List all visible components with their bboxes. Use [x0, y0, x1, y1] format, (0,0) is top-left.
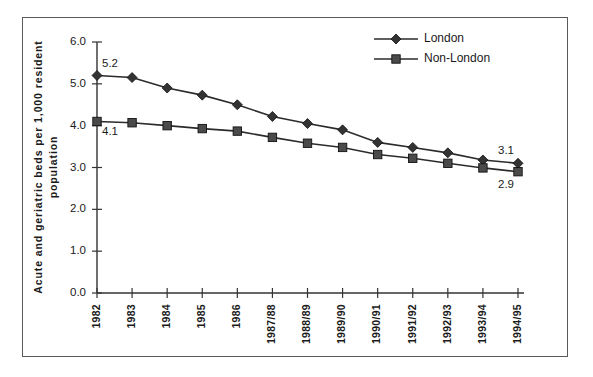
- chart-page: Acute and geriatric beds per 1,000 resid…: [0, 0, 593, 377]
- x-axis-tick-label: 1991/92: [406, 304, 418, 344]
- data-point-label: 3.1: [498, 144, 514, 156]
- data-point-marker-diamond: [197, 90, 207, 100]
- data-point-marker-diamond: [232, 100, 242, 110]
- data-point-marker-diamond: [92, 70, 102, 80]
- x-axis-tick-label: 1992/93: [441, 304, 453, 344]
- x-axis-tick-label: 1987/88: [265, 304, 277, 344]
- data-point-marker-diamond: [443, 148, 453, 158]
- y-axis-tick-label: 2.0: [70, 202, 86, 214]
- x-axis-tick-label: 1990/91: [370, 304, 382, 344]
- data-point-marker-square: [268, 133, 276, 141]
- data-point-marker-square: [373, 150, 381, 158]
- plot-area: 0.01.02.03.04.05.06.0 198219831984198519…: [22, 17, 568, 357]
- x-axis: 198219831984198519861987/881988/891989/9…: [90, 288, 524, 344]
- data-point-marker-square: [409, 154, 417, 162]
- data-point-marker-square: [198, 124, 206, 132]
- x-axis-tick-label: 1993/94: [476, 304, 488, 344]
- data-point-marker-square: [163, 121, 171, 129]
- x-axis-tick-label: 1989/90: [335, 304, 347, 344]
- data-point-marker-square: [479, 164, 487, 172]
- x-axis-tick-label: 1994/95: [511, 304, 523, 344]
- data-point-marker-square: [444, 159, 452, 167]
- data-point-marker-square: [338, 143, 346, 151]
- y-axis-tick-label: 0.0: [70, 286, 86, 298]
- legend-label: Non-London: [424, 51, 490, 65]
- x-axis-tick-label: 1985: [195, 304, 207, 329]
- data-point-marker-diamond: [373, 137, 383, 147]
- legend-label: London: [424, 31, 464, 45]
- y-axis-tick-label: 3.0: [70, 161, 86, 173]
- data-point-label: 4.1: [102, 125, 118, 137]
- y-axis-tick-label: 4.0: [70, 119, 86, 131]
- y-axis-tick-label: 6.0: [70, 35, 86, 47]
- data-point-marker-diamond: [408, 142, 418, 152]
- legend-marker-square: [392, 55, 400, 63]
- data-point-label: 2.9: [498, 178, 514, 190]
- y-axis-tick-label: 5.0: [70, 77, 86, 89]
- legend-marker-diamond: [391, 34, 401, 44]
- x-axis-tick-label: 1982: [90, 304, 102, 329]
- data-point-marker-diamond: [303, 119, 313, 129]
- data-point-marker-square: [303, 139, 311, 147]
- line-chart: 0.01.02.03.04.05.06.0 198219831984198519…: [22, 17, 568, 357]
- series-container: [92, 70, 523, 175]
- x-axis-tick-label: 1983: [125, 304, 137, 329]
- data-point-marker-square: [514, 167, 522, 175]
- y-axis-tick-label: 1.0: [70, 244, 86, 256]
- data-point-marker-square: [233, 127, 241, 135]
- data-point-label: 5.2: [102, 57, 118, 69]
- data-point-marker-diamond: [162, 83, 172, 93]
- x-axis-tick-label: 1986: [230, 304, 242, 329]
- data-point-marker-square: [93, 117, 101, 125]
- data-point-marker-diamond: [267, 111, 277, 121]
- data-point-marker-square: [128, 119, 136, 127]
- chart-legend: LondonNon-London: [374, 31, 490, 65]
- data-point-marker-diamond: [513, 158, 523, 168]
- data-point-marker-diamond: [127, 73, 137, 83]
- x-axis-tick-label: 1988/89: [300, 304, 312, 344]
- x-axis-tick-label: 1984: [160, 304, 172, 329]
- data-point-marker-diamond: [338, 125, 348, 135]
